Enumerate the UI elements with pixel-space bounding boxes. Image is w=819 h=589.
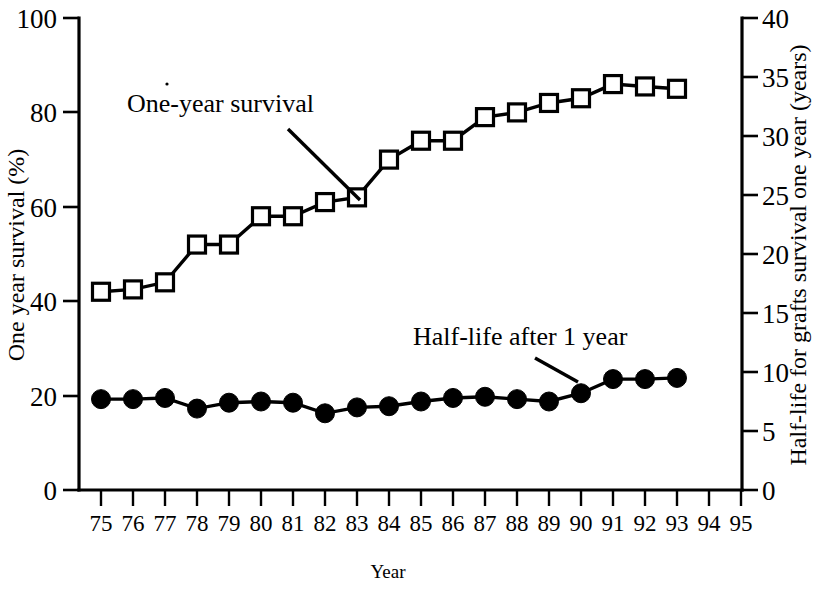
data-point-marker xyxy=(253,208,270,225)
data-point-marker xyxy=(445,132,462,149)
annotation-one-year-survival: One-year survival xyxy=(127,82,360,200)
left-axis-tick-label: 100 xyxy=(17,4,58,34)
x-axis-tick-label: 86 xyxy=(442,511,465,536)
data-point-marker xyxy=(348,398,367,417)
data-point-marker xyxy=(220,393,239,412)
data-point-marker xyxy=(284,393,303,412)
data-point-marker xyxy=(413,132,430,149)
x-axis-tick-label: 92 xyxy=(634,511,657,536)
data-point-marker xyxy=(541,94,558,111)
left-axis: 100 80 60 40 20 0 One year survival (%) xyxy=(3,4,79,506)
data-point-marker xyxy=(221,236,238,253)
x-axis-tick-label: 90 xyxy=(570,511,593,536)
data-point-marker xyxy=(252,392,271,411)
data-point-marker xyxy=(509,104,526,121)
right-axis-tick-label: 40 xyxy=(762,4,789,34)
data-point-marker xyxy=(604,370,623,389)
data-point-marker xyxy=(316,404,335,423)
data-point-marker xyxy=(572,384,591,403)
data-point-marker xyxy=(508,390,527,409)
right-axis-tick-label: 0 xyxy=(762,476,776,506)
x-axis-tick-label: 78 xyxy=(186,511,209,536)
right-axis-tick-label: 5 xyxy=(762,417,776,447)
x-axis: 75 76 77 78 79 80 81 82 83 84 85 86 87 8… xyxy=(79,490,753,582)
x-axis-tick-label: 80 xyxy=(250,511,273,536)
annotation-leader-half-life xyxy=(535,358,578,382)
right-axis-title: Half-life for grafts survival one year (… xyxy=(785,44,811,465)
left-axis-tick-label: 60 xyxy=(30,193,57,223)
left-axis-title: One year survival (%) xyxy=(3,149,29,362)
series-markers-half-life xyxy=(92,368,687,422)
data-point-marker xyxy=(669,80,686,97)
x-axis-tick-label: 84 xyxy=(378,511,402,536)
x-axis-tick-label: 87 xyxy=(474,511,497,536)
data-point-marker xyxy=(477,109,494,126)
data-point-marker xyxy=(637,78,654,95)
x-axis-tick-label: 75 xyxy=(90,511,113,536)
annotation-leader-one-year-survival xyxy=(288,129,360,200)
data-point-marker xyxy=(636,370,655,389)
data-point-marker xyxy=(285,208,302,225)
data-point-marker xyxy=(573,90,590,107)
chart-figure: 100 80 60 40 20 0 One year survival (%) … xyxy=(0,0,819,589)
x-axis-tick-label: 77 xyxy=(154,511,177,536)
x-axis-tick-label: 94 xyxy=(698,511,722,536)
x-axis-tick-label: 95 xyxy=(730,511,753,536)
x-axis-tick-label: 89 xyxy=(538,511,561,536)
x-axis-tick-label: 88 xyxy=(506,511,529,536)
data-point-marker xyxy=(317,194,334,211)
chart-canvas: 100 80 60 40 20 0 One year survival (%) … xyxy=(0,0,819,589)
data-point-marker xyxy=(189,236,206,253)
data-point-marker xyxy=(380,397,399,416)
data-point-marker xyxy=(605,76,622,93)
x-axis-tick-label: 76 xyxy=(122,511,145,536)
x-axis-tick-label: 83 xyxy=(346,511,369,536)
data-point-marker xyxy=(381,151,398,168)
data-point-marker xyxy=(444,388,463,407)
series-half-life xyxy=(92,368,687,422)
x-axis-tick-label: 93 xyxy=(666,511,689,536)
x-axis-tick-label: 85 xyxy=(410,511,433,536)
data-point-marker xyxy=(540,392,559,411)
data-point-marker xyxy=(668,368,687,387)
left-axis-tick-label: 40 xyxy=(30,287,57,317)
x-axis-tick-label: 81 xyxy=(282,511,305,536)
right-axis: 40 35 30 25 20 15 10 5 0 Half-life for g… xyxy=(742,4,811,506)
ink-speck xyxy=(165,82,168,85)
left-axis-tick-label: 20 xyxy=(30,382,57,412)
data-point-marker xyxy=(412,392,431,411)
data-point-marker xyxy=(476,387,495,406)
x-axis-tick-label: 91 xyxy=(602,511,625,536)
x-axis-tick-label: 79 xyxy=(218,511,241,536)
annotation-label-one-year-survival: One-year survival xyxy=(127,89,314,118)
left-axis-tick-label: 0 xyxy=(44,476,58,506)
left-axis-tick-label: 80 xyxy=(30,98,57,128)
data-point-marker xyxy=(125,281,142,298)
data-point-marker xyxy=(157,274,174,291)
data-point-marker xyxy=(188,399,207,418)
data-point-marker xyxy=(92,390,111,409)
data-point-marker xyxy=(93,283,110,300)
annotation-half-life: Half-life after 1 year xyxy=(413,322,628,382)
data-point-marker xyxy=(156,388,175,407)
x-axis-title: Year xyxy=(370,561,406,582)
data-point-marker xyxy=(124,390,143,409)
annotation-label-half-life: Half-life after 1 year xyxy=(413,322,628,351)
x-axis-tick-label: 82 xyxy=(314,511,337,536)
